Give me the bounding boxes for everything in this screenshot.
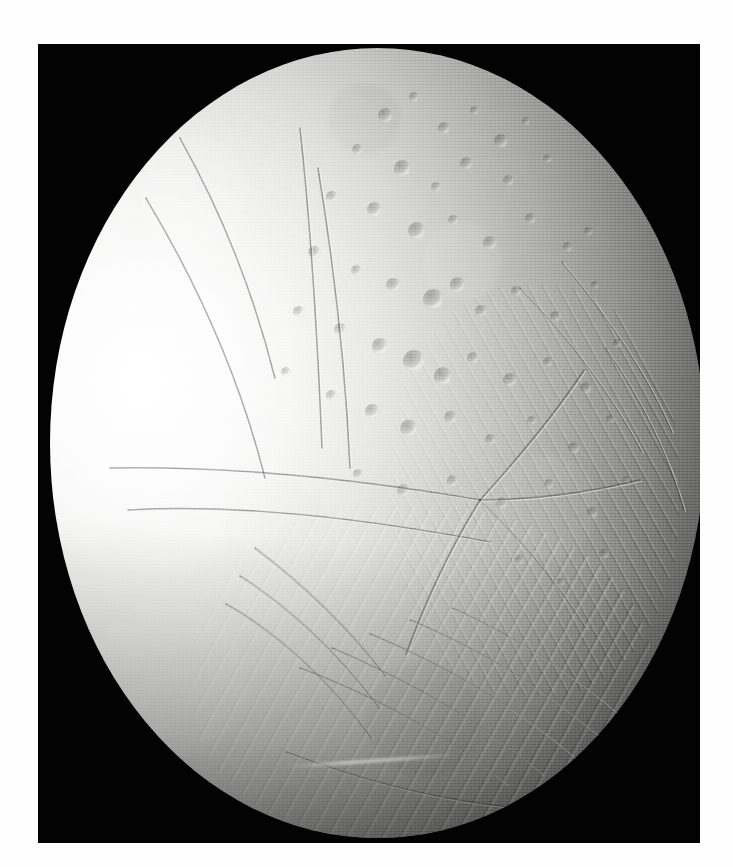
enceladus-disk (50, 48, 700, 838)
terminator-shadow-overlay (50, 48, 700, 838)
page-canvas (0, 0, 733, 867)
photograph-frame (38, 44, 700, 843)
